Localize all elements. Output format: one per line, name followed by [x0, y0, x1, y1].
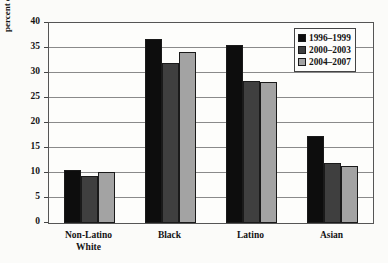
y-axis-tick-label: 35 — [18, 42, 40, 51]
legend-swatch-icon — [298, 46, 306, 54]
y-axis-title: percent of children (<18 yrs old) in pov… — [0, 0, 14, 50]
y-axis-tick-mark — [44, 222, 48, 223]
y-axis-tick-mark — [44, 172, 48, 173]
bar-group — [64, 23, 115, 223]
legend-swatch-icon — [298, 34, 306, 42]
y-axis-tick-mark — [44, 47, 48, 48]
legend-item: 2004–2007 — [298, 56, 351, 68]
bar-group — [145, 23, 196, 223]
bar — [162, 63, 179, 223]
x-axis-tick-label: Asian — [291, 230, 372, 242]
legend: 1996–19992000–20032004–2007 — [294, 28, 356, 72]
y-axis-tick-label: 15 — [18, 142, 40, 151]
y-axis-tick-label: 20 — [18, 117, 40, 126]
bar — [145, 39, 162, 223]
y-axis-tick-mark — [44, 22, 48, 23]
bar — [64, 170, 81, 224]
legend-item: 1996–1999 — [298, 32, 351, 44]
bar — [307, 136, 324, 224]
y-axis-tick-mark — [44, 72, 48, 73]
bar — [243, 81, 260, 224]
y-axis-tick-mark — [44, 97, 48, 98]
bar — [324, 163, 341, 224]
y-axis-tick-mark — [44, 147, 48, 148]
legend-label: 2004–2007 — [309, 57, 351, 67]
y-axis-tick-label: 40 — [18, 17, 40, 26]
y-axis-tick-label: 10 — [18, 167, 40, 176]
x-axis-tick-label: Black — [129, 230, 210, 242]
bar — [81, 176, 98, 223]
legend-label: 2000–2003 — [309, 45, 351, 55]
legend-swatch-icon — [298, 58, 306, 66]
x-axis-tick-label: Latino — [210, 230, 291, 242]
y-axis-tick-label: 0 — [18, 217, 40, 226]
bar — [179, 52, 196, 223]
bar — [341, 166, 358, 223]
y-axis-tick-mark — [44, 197, 48, 198]
y-axis-tick-label: 5 — [18, 192, 40, 201]
bar — [226, 45, 243, 223]
y-axis-tick-mark — [44, 122, 48, 123]
legend-label: 1996–1999 — [309, 33, 351, 43]
y-axis-tick-label: 30 — [18, 67, 40, 76]
x-axis-tick-label: Non-Latino White — [48, 230, 129, 253]
bar — [98, 172, 115, 223]
legend-item: 2000–2003 — [298, 44, 351, 56]
y-axis-tick-label: 25 — [18, 92, 40, 101]
bar — [260, 82, 277, 224]
bar-group — [226, 23, 277, 223]
poverty-bar-chart: percent of children (<18 yrs old) in pov… — [0, 0, 388, 263]
